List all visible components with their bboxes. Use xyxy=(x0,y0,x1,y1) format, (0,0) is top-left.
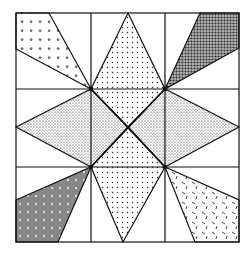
corner-top-left xyxy=(16,13,91,89)
quilt-diagram xyxy=(0,0,252,259)
corner-bottom-right xyxy=(165,167,239,242)
corner-top-right xyxy=(165,13,239,89)
corner-bottom-left xyxy=(16,167,91,242)
